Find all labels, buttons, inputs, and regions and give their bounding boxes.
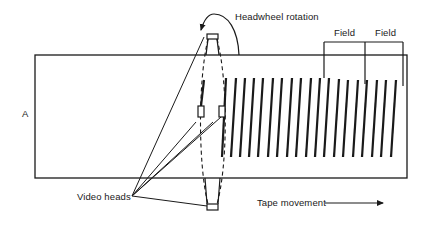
field-brackets [324,42,403,86]
video-heads-label: Video heads [77,192,131,202]
bottom-video-head [205,178,220,210]
tape-movement-label: Tape movement [257,198,326,208]
helical-scan-diagram [0,0,428,226]
recorded-tracks [222,78,396,157]
field-label-1: Field [334,28,355,38]
top-video-head [206,34,219,55]
middle-video-heads [198,80,225,117]
video-heads-leaders [132,37,221,206]
field-label-2: Field [375,28,396,38]
headwheel-rotation-label: Headwheel rotation [235,12,319,22]
edge-marker-a: A [22,109,28,119]
headwheel [201,39,226,204]
